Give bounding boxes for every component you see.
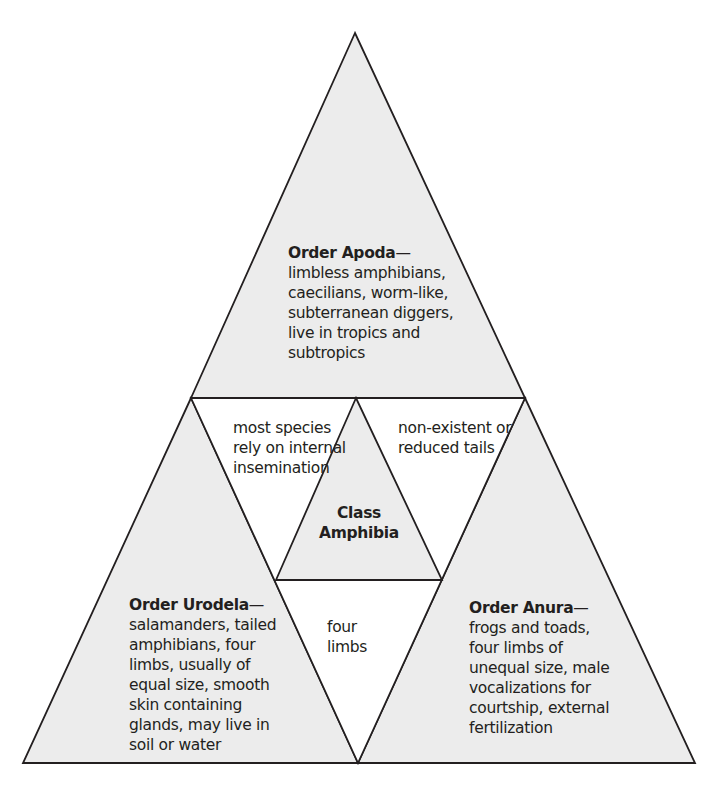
urodela-description: Order Urodela— salamanders, tailed amphi… bbox=[129, 595, 276, 755]
class-amphibia-label: Class Amphibia bbox=[309, 503, 409, 543]
anura-description: Order Anura— frogs and toads, four limbs… bbox=[469, 598, 610, 738]
apoda-line: live in tropics and bbox=[288, 323, 453, 343]
apoda-line: subtropics bbox=[288, 343, 453, 363]
apoda-line: caecilians, worm-like, bbox=[288, 283, 453, 303]
apoda-description: Order Apoda— limbless amphibians, caecil… bbox=[288, 243, 453, 363]
shared-apoda-urodela: most species rely on internal inseminati… bbox=[233, 418, 346, 478]
apoda-title: Order Apoda bbox=[288, 244, 395, 262]
urodela-title: Order Urodela bbox=[129, 596, 249, 614]
shared-urodela-anura: four limbs bbox=[327, 617, 367, 657]
shared-apoda-anura: non-existent or reduced tails bbox=[398, 418, 511, 458]
apoda-line: limbless amphibians, bbox=[288, 263, 453, 283]
anura-title: Order Anura bbox=[469, 599, 573, 617]
apoda-line: subterranean diggers, bbox=[288, 303, 453, 323]
